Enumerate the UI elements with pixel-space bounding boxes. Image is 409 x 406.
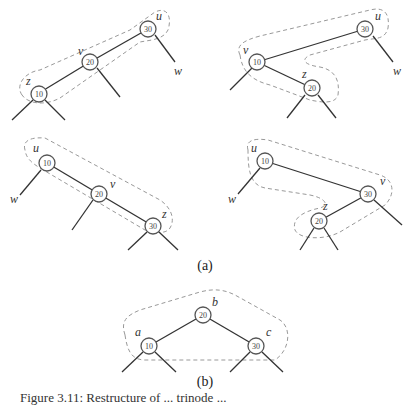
svg-text:w: w — [174, 64, 182, 78]
svg-text:a: a — [135, 325, 141, 339]
svg-text:z: z — [161, 207, 167, 221]
svg-text:v: v — [380, 174, 386, 188]
svg-text:u: u — [33, 141, 39, 155]
svg-text:u: u — [251, 141, 257, 155]
svg-text:v: v — [243, 43, 249, 57]
svg-text:20: 20 — [308, 84, 316, 93]
svg-text:10: 10 — [43, 159, 51, 168]
svg-text:u: u — [375, 9, 381, 23]
svg-text:10: 10 — [145, 342, 153, 351]
svg-text:z: z — [322, 199, 328, 213]
svg-text:c: c — [266, 325, 272, 339]
svg-text:30: 30 — [361, 25, 369, 34]
panel-b: 20 10 30 b a c — [122, 290, 288, 372]
subfigure-label-b: (b) — [197, 374, 214, 390]
svg-text:10: 10 — [261, 157, 269, 166]
svg-text:20: 20 — [315, 217, 323, 226]
svg-text:20: 20 — [86, 58, 94, 67]
figure-caption: Figure 3.11: Restructure of ... trinode … — [20, 390, 226, 406]
svg-text:30: 30 — [364, 190, 372, 199]
svg-text:z: z — [25, 74, 31, 88]
svg-text:u: u — [156, 9, 162, 23]
svg-text:30: 30 — [252, 342, 260, 351]
panel-a3: 10 20 30 u v z w — [10, 138, 178, 250]
svg-text:w: w — [10, 192, 18, 206]
svg-text:20: 20 — [95, 190, 103, 199]
svg-text:b: b — [212, 295, 218, 309]
panel-a2: 30 10 20 u v z w — [230, 9, 401, 118]
svg-text:30: 30 — [144, 25, 152, 34]
svg-text:20: 20 — [199, 311, 207, 320]
svg-text:v: v — [110, 177, 116, 191]
svg-text:w: w — [393, 64, 401, 78]
svg-text:w: w — [228, 192, 236, 206]
svg-text:v: v — [78, 44, 84, 58]
svg-text:30: 30 — [149, 222, 157, 231]
svg-text:10: 10 — [35, 90, 43, 99]
svg-text:10: 10 — [253, 58, 261, 67]
subfigure-label-a: (a) — [197, 258, 213, 274]
svg-text:z: z — [301, 67, 307, 81]
panel-a4: 10 30 20 u v z w — [228, 139, 402, 250]
panel-a1: 30 20 10 u v z w — [12, 9, 182, 120]
